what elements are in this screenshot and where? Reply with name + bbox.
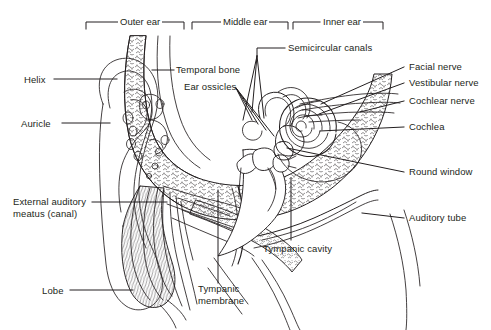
label-helix: Helix — [24, 74, 46, 86]
bracket-label-inner-ear: Inner ear — [321, 16, 363, 27]
label-vestibular-nerve: Vestibular nerve — [409, 77, 479, 89]
label-auditory-tube: Auditory tube — [409, 212, 466, 224]
bracket-label-outer-ear: Outer ear — [118, 16, 162, 27]
label-line-2: membrane — [198, 295, 244, 306]
ear-cross-section-illustration — [0, 0, 491, 330]
label-tympanic-membrane: Tympanic membrane — [198, 283, 278, 306]
ear-anatomy-figure: Outer ear Middle ear Inner ear Helix Aur… — [0, 0, 491, 330]
label-semicircular-canals: Semicircular canals — [288, 42, 372, 54]
label-facial-nerve: Facial nerve — [409, 61, 462, 73]
label-temporal-bone: Temporal bone — [176, 64, 240, 76]
label-line-1: External auditory — [13, 196, 86, 207]
label-lobe: Lobe — [42, 285, 64, 297]
label-cochlear-nerve: Cochlear nerve — [409, 95, 475, 107]
label-external-auditory-meatus: External auditory meatus (canal) — [13, 196, 97, 219]
label-line-1: Tympanic — [198, 283, 239, 294]
label-tympanic-cavity: Tympanic cavity — [263, 243, 332, 255]
label-line-2: meatus (canal) — [13, 208, 77, 219]
label-cochlea: Cochlea — [409, 121, 445, 133]
bracket-label-middle-ear: Middle ear — [221, 16, 269, 27]
label-ear-ossicles: Ear ossicles — [184, 81, 236, 93]
label-round-window: Round window — [409, 166, 473, 178]
label-auricle: Auricle — [21, 118, 51, 130]
